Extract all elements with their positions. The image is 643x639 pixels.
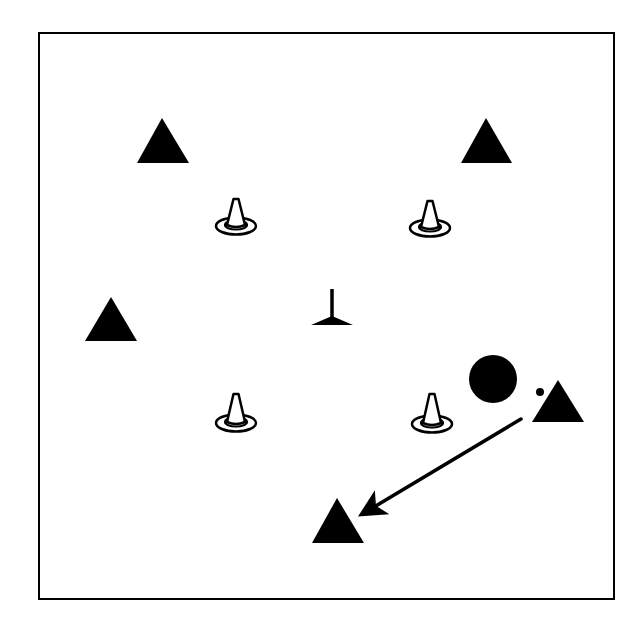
- cone-top-right-icon: [410, 201, 450, 237]
- cone-bottom-right-icon: [412, 394, 452, 433]
- cone-top-left-icon: [216, 199, 256, 235]
- player-left-triangle-icon: [85, 297, 137, 341]
- ball-icon: [536, 388, 544, 396]
- player-bottom-triangle-icon: [312, 498, 364, 543]
- cone-bottom-left-icon: [216, 394, 256, 432]
- center-marker-icon: [311, 289, 353, 325]
- players-layer: [85, 118, 584, 543]
- pass-arrow-icon: [364, 419, 521, 513]
- field-boundary: [39, 33, 614, 599]
- player-right-triangle-icon: [532, 380, 584, 422]
- cones-layer: [216, 199, 452, 433]
- player-top-left-triangle-icon: [137, 118, 189, 163]
- drill-diagram: [0, 0, 643, 639]
- defender-circle-icon: [469, 355, 517, 403]
- player-top-right-triangle-icon: [461, 118, 512, 163]
